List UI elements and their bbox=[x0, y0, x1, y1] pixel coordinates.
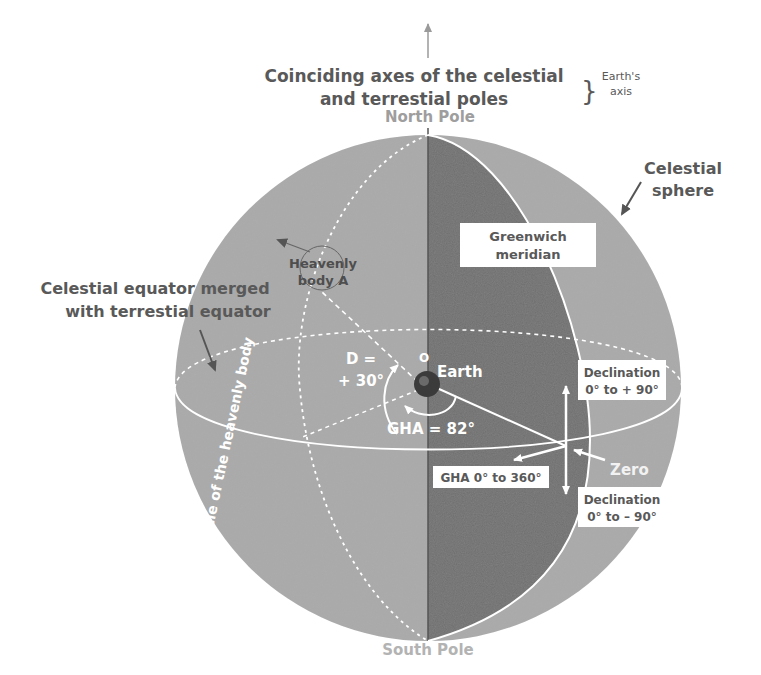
equator-label-line1: Celestial equator merged bbox=[40, 279, 269, 298]
declination-value-line2: + 30° bbox=[338, 372, 384, 390]
gha-value-label: GHA = 82° bbox=[387, 420, 475, 438]
earth-label: Earth bbox=[437, 363, 483, 381]
declination-positive-line2: 0° to + 90° bbox=[585, 383, 659, 397]
declination-positive-label: Declination 0° to + 90° bbox=[578, 360, 666, 400]
greenwich-label-line1: Greenwich bbox=[489, 229, 566, 244]
equator-label-line2: with terrestial equator bbox=[65, 302, 271, 321]
gha-range-label: GHA 0° to 360° bbox=[433, 466, 549, 488]
gha-range-text: GHA 0° to 360° bbox=[440, 471, 541, 485]
declination-negative-line2: 0° to – 90° bbox=[587, 510, 657, 524]
heavenly-body-label-line1: Heavenly bbox=[289, 256, 357, 271]
title-bracket: } bbox=[581, 76, 598, 106]
declination-negative-line1: Declination bbox=[584, 493, 661, 507]
greenwich-meridian-label: Greenwich meridian bbox=[460, 223, 596, 267]
south-pole-label: South Pole bbox=[382, 641, 473, 659]
heavenly-body-label-line2: body A bbox=[298, 273, 349, 288]
origin-label: O bbox=[419, 351, 429, 365]
zero-label: Zero bbox=[610, 461, 649, 479]
celestial-sphere-label-line1: Celestial bbox=[644, 159, 722, 178]
title-line1: Coinciding axes of the celestial bbox=[264, 66, 563, 86]
earth-highlight bbox=[419, 376, 429, 386]
celestial-sphere-diagram: Coinciding axes of the celestial and ter… bbox=[0, 0, 761, 675]
north-pole-label: North Pole bbox=[385, 108, 475, 126]
title-line2: and terrestial poles bbox=[320, 89, 508, 109]
greenwich-label-line2: meridian bbox=[495, 247, 560, 262]
celestial-sphere-label-line2: sphere bbox=[652, 181, 714, 200]
declination-positive-line1: Declination bbox=[584, 366, 661, 380]
celestial-sphere-pointer bbox=[622, 182, 641, 214]
earth-axis-label-line1: Earth's bbox=[602, 70, 641, 83]
earth-axis-label-line2: axis bbox=[610, 85, 632, 98]
declination-negative-label: Declination 0° to – 90° bbox=[578, 487, 666, 527]
declination-value-line1: D = bbox=[346, 350, 376, 368]
